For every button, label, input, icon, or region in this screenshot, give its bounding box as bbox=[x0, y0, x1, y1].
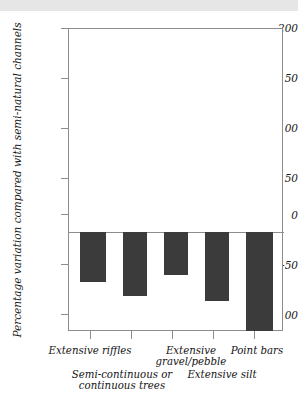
bar-extensive-riffles bbox=[80, 232, 106, 282]
y-tick-mark-150 bbox=[61, 78, 68, 79]
plot-area bbox=[68, 28, 283, 331]
bar-chart-figure: Percentage variation compared with semi-… bbox=[0, 11, 298, 410]
bars-layer bbox=[69, 29, 284, 332]
x-tick-mark-3 bbox=[172, 331, 173, 339]
y-axis-title-container: Percentage variation compared with semi-… bbox=[6, 28, 28, 331]
y-tick-mark-minus-50 bbox=[61, 264, 68, 265]
y-tick-mark-minus-100 bbox=[61, 314, 68, 315]
y-tick-mark-100 bbox=[61, 128, 68, 129]
y-tick-mark-200 bbox=[61, 28, 68, 29]
x-label-extensive-silt: Extensive silt bbox=[181, 369, 263, 381]
x-label-extensive-gravel-pebble-line2: gravel/pebble bbox=[153, 356, 229, 368]
x-tick-mark-1 bbox=[90, 331, 91, 339]
bar-point-bars bbox=[246, 232, 273, 331]
x-label-semi-continuous-trees-line2: continuous trees bbox=[66, 380, 178, 392]
x-label-extensive-gravel-pebble-line1: Extensive bbox=[153, 345, 229, 357]
bar-semi-continuous-trees bbox=[123, 232, 147, 296]
x-label-semi-continuous-trees-line1: Semi-continuous or bbox=[66, 369, 178, 381]
x-tick-mark-2 bbox=[131, 331, 132, 339]
y-tick-mark-50 bbox=[61, 178, 68, 179]
x-tick-mark-5 bbox=[254, 331, 255, 339]
x-label-extensive-riffles: Extensive riffles bbox=[42, 345, 138, 357]
x-label-point-bars: Point bars bbox=[221, 345, 293, 357]
bar-extensive-gravel-pebble bbox=[164, 232, 188, 275]
bar-extensive-silt bbox=[205, 232, 229, 301]
y-axis-title: Percentage variation compared with semi-… bbox=[11, 22, 23, 337]
y-tick-mark-0 bbox=[61, 214, 68, 215]
page-root: Percentage variation compared with semi-… bbox=[0, 0, 298, 410]
top-header-band bbox=[0, 0, 298, 11]
x-tick-mark-4 bbox=[213, 331, 214, 339]
